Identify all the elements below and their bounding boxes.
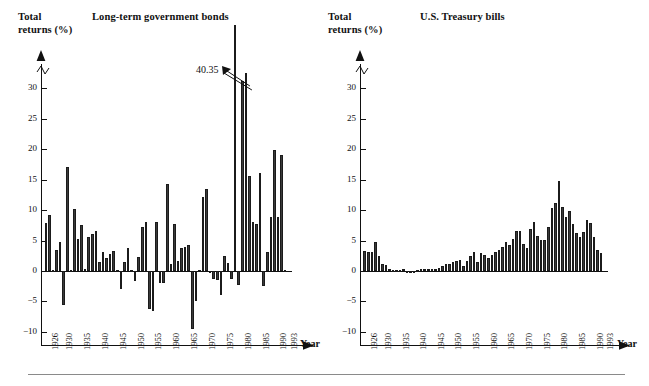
bar <box>448 264 451 271</box>
bar <box>148 271 151 309</box>
bar <box>367 252 370 271</box>
bar <box>427 269 430 271</box>
bar <box>280 155 283 271</box>
bar <box>551 208 554 271</box>
bar <box>170 264 173 271</box>
bar <box>98 262 101 271</box>
bar <box>434 269 437 271</box>
bar <box>120 271 123 289</box>
bar <box>52 270 55 272</box>
bar <box>259 173 262 271</box>
x-axis-tick-label: 1990 <box>278 333 288 350</box>
x-axis-tick-label: 1935 <box>401 333 411 350</box>
bar <box>209 271 212 273</box>
x-axis-label: Year <box>300 338 320 349</box>
y-axis-tick-label: 5 <box>11 235 37 245</box>
bar <box>155 222 158 271</box>
x-axis-tick-label: 1930 <box>64 333 74 350</box>
bar <box>547 227 550 271</box>
bar <box>363 251 366 271</box>
bottom-divider <box>28 374 625 375</box>
x-axis-tick-label: 1960 <box>171 333 181 350</box>
bar <box>177 261 180 271</box>
bar <box>533 222 536 271</box>
y-axis-tick <box>361 241 366 242</box>
bar <box>480 253 483 271</box>
bar <box>466 261 469 271</box>
bar <box>381 264 384 271</box>
bar <box>416 270 419 272</box>
bar <box>77 239 80 271</box>
y-axis-tick <box>42 210 47 211</box>
bar <box>512 239 515 271</box>
bar <box>123 262 126 271</box>
bar <box>402 269 405 271</box>
bar <box>216 271 219 280</box>
bar <box>87 237 90 271</box>
bar <box>371 252 374 272</box>
bar <box>80 225 83 271</box>
bar <box>137 257 140 271</box>
x-axis-tick-label: 1960 <box>489 333 499 350</box>
x-axis-tick-label: 1980 <box>243 333 253 350</box>
y-axis-tick <box>361 332 366 333</box>
y-axis-tick-label: 20 <box>330 143 356 153</box>
bar <box>494 252 497 271</box>
x-axis-tick-label: 1926 <box>50 333 60 350</box>
bar <box>558 181 561 271</box>
bar <box>84 269 87 271</box>
bar <box>529 229 532 271</box>
bar <box>284 270 287 272</box>
bar <box>395 270 398 272</box>
bar <box>374 242 377 271</box>
x-axis-tick-label: 1930 <box>383 333 393 350</box>
y-axis-tick <box>42 332 47 333</box>
bar <box>526 248 529 271</box>
bar <box>191 271 194 329</box>
bar <box>483 255 486 271</box>
y-axis-tick-label: 0 <box>11 265 37 275</box>
y-axis-line <box>41 64 42 345</box>
bar <box>48 215 51 271</box>
bar <box>536 236 539 271</box>
plot-area-treasury-bills: 302520151050−5−10Year1926193019351940194… <box>320 0 649 386</box>
x-axis-tick-label: 1980 <box>559 333 569 350</box>
x-axis-tick-label: 1993 <box>289 333 299 350</box>
bar <box>70 270 73 272</box>
y-axis-tick-label: 25 <box>330 113 356 123</box>
bar <box>579 237 582 271</box>
bar <box>112 251 115 271</box>
bar <box>273 150 276 271</box>
bar <box>230 271 233 279</box>
bar <box>220 271 223 295</box>
bar <box>66 167 69 271</box>
bar <box>277 217 280 271</box>
x-axis-tick-label: 1965 <box>506 333 516 350</box>
bar <box>59 242 62 271</box>
bar <box>166 184 169 271</box>
y-axis-tick-label: −5 <box>11 295 37 305</box>
bar <box>91 234 94 271</box>
bar <box>95 231 98 271</box>
bar <box>245 73 248 271</box>
value-callout-label: 40.35 <box>196 64 219 75</box>
bar <box>234 25 237 271</box>
bar <box>452 262 455 271</box>
bar <box>462 266 465 271</box>
bar <box>455 261 458 271</box>
y-axis-tick <box>42 119 47 120</box>
bar <box>501 247 504 271</box>
bar <box>438 268 441 271</box>
bar <box>388 269 391 271</box>
x-axis-tick-label: 1940 <box>418 333 428 350</box>
bar <box>572 224 575 271</box>
bar <box>568 211 571 271</box>
bar <box>476 262 479 271</box>
bar <box>582 232 585 271</box>
bar <box>543 240 546 271</box>
bar <box>565 217 568 271</box>
y-axis-line <box>360 64 361 345</box>
bar <box>173 224 176 271</box>
x-axis-tick-label: 1950 <box>453 333 463 350</box>
bar <box>420 269 423 271</box>
